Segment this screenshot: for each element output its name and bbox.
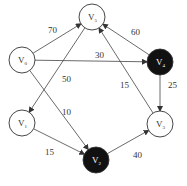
edge-v4-v5: [103, 24, 149, 55]
node-v5: V5: [79, 4, 105, 30]
edge-v1-v2: [34, 129, 85, 154]
node-v3: V3: [147, 111, 173, 137]
edge-weight-label: 30: [95, 50, 105, 60]
edge-weight-label: 15: [45, 147, 55, 157]
edge-weight-label: 10: [62, 107, 72, 117]
edges: 703050106015251540: [29, 24, 177, 160]
edge-v0-v5: [33, 24, 81, 53]
node-v0: V0: [9, 47, 35, 73]
edge-weight-label: 25: [168, 80, 178, 90]
edge-v2-v3: [107, 130, 148, 153]
edge-weight-label: 15: [120, 80, 130, 90]
graph-diagram: 703050106015251540 V0V5V4V1V3V2: [0, 0, 187, 186]
edge-weight-label: 40: [133, 150, 143, 160]
node-v2: V2: [83, 147, 109, 173]
edge-v3-v5: [99, 28, 153, 113]
edge-weight-label: 50: [62, 74, 72, 84]
edge-v5-v1: [29, 28, 85, 112]
node-v4: V4: [147, 49, 173, 75]
edge-weight-label: 70: [48, 25, 58, 35]
edge-weight-label: 60: [131, 27, 141, 37]
graph-canvas: 703050106015251540 V0V5V4V1V3V2: [0, 0, 187, 186]
edge-v0-v2: [30, 70, 89, 149]
edge-v0-v4: [35, 60, 147, 62]
nodes: V0V5V4V1V3V2: [9, 4, 173, 173]
node-v1: V1: [9, 110, 35, 136]
